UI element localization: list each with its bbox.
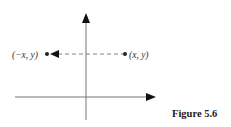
figure-caption: Figure 5.6 (172, 108, 217, 119)
point-reflected (45, 52, 49, 56)
y-axis-arrow-icon (82, 13, 90, 23)
reflection-diagram: (x, y) (−x, y) Figure 5.6 (0, 0, 231, 127)
point-original-label: (x, y) (129, 50, 149, 61)
point-reflected-label: (−x, y) (12, 50, 38, 61)
x-axis (15, 93, 156, 101)
x-axis-arrow-icon (146, 93, 156, 101)
point-original (123, 52, 127, 56)
reflection-arrow-icon (50, 50, 59, 58)
y-axis (82, 13, 90, 120)
reflection-line (50, 50, 124, 58)
